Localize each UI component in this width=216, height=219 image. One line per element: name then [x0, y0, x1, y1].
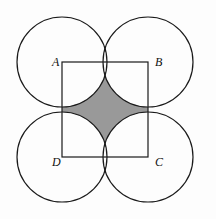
shaded-curvilinear-region	[0, 0, 216, 219]
geometry-diagram-canvas: A B C D	[0, 0, 216, 219]
vertex-label-a: A	[51, 55, 60, 69]
vertex-label-b: B	[155, 55, 163, 69]
vertex-label-d: D	[51, 155, 61, 169]
vertex-label-c: C	[155, 155, 164, 169]
geometry-figure: A B C D	[0, 0, 216, 219]
